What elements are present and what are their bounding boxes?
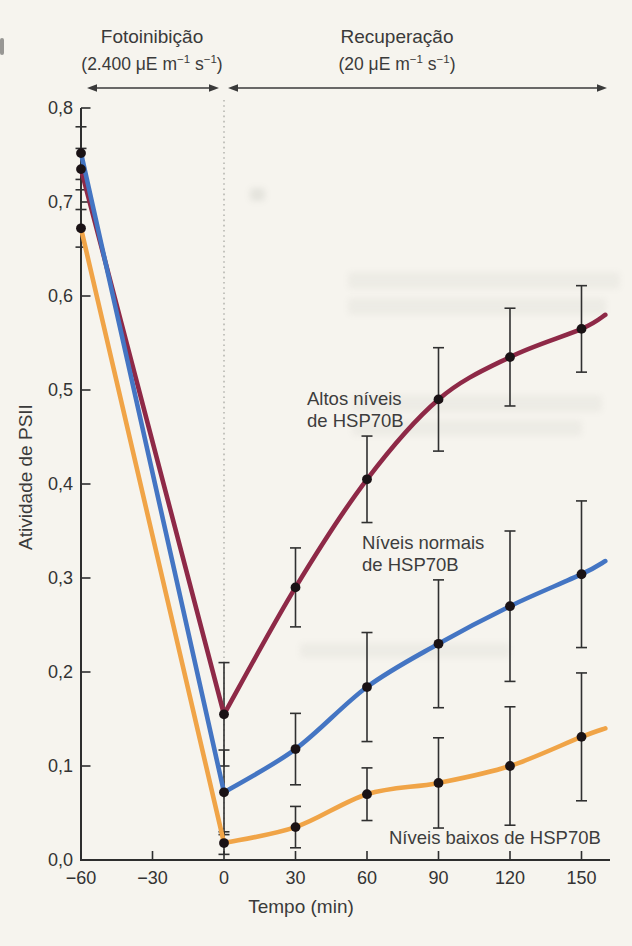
data-point (291, 822, 301, 832)
data-point (434, 395, 444, 405)
data-point (76, 164, 86, 174)
series-label-line: Níveis baixos de HSP70B (389, 827, 601, 849)
series-line-altos-n-veis-de-hsp70b (81, 169, 605, 714)
y-tick-label: 0,2 (48, 662, 73, 682)
x-tick-label: 150 (566, 868, 596, 888)
data-point (577, 569, 587, 579)
phase-fotoinibicao-intensity: (2.400 μE m−1 s−1) (81, 50, 222, 74)
y-tick-label: 0,8 (48, 98, 73, 118)
x-tick-label: −60 (66, 868, 97, 888)
y-tick-label: 0,0 (48, 850, 73, 870)
data-point (577, 732, 587, 742)
data-point (219, 838, 229, 848)
x-axis-title: Tempo (min) (248, 896, 354, 918)
y-tick-label: 0,5 (48, 380, 73, 400)
series-label-line: de HSP70B (362, 554, 484, 576)
phase-fotoinibicao-title: Fotoinibição (81, 26, 222, 47)
data-point (76, 148, 86, 158)
data-point (362, 474, 372, 484)
series-label-line: Níveis normais (362, 532, 484, 554)
series-label-altos-n-veis-de-hsp70b: Altos níveisde HSP70B (307, 388, 404, 432)
data-point (362, 789, 372, 799)
series-label-n-veis-normais-de-hsp70b: Níveis normaisde HSP70B (362, 532, 484, 576)
data-point (291, 583, 301, 593)
axes (81, 108, 610, 860)
figure-page: −60−3003060901201500,00,10,20,30,40,50,6… (0, 0, 632, 946)
phase-arrow-fotoinibicao (87, 84, 219, 92)
y-tick-label: 0,6 (48, 286, 73, 306)
y-tick-label: 0,7 (48, 192, 73, 212)
phase-recuperacao-intensity: (20 μE m−1 s−1) (338, 50, 455, 74)
series-label-line: Altos níveis (307, 388, 404, 410)
series-label-line: de HSP70B (307, 410, 404, 432)
phase-recuperacao-title: Recuperação (338, 26, 455, 47)
data-point (362, 682, 372, 692)
y-tick-label: 0,3 (48, 568, 73, 588)
data-point (434, 639, 444, 649)
y-tick-label: 0,1 (48, 756, 73, 776)
x-tick-label: −30 (137, 868, 168, 888)
data-point (219, 787, 229, 797)
x-tick-label: 30 (285, 868, 305, 888)
y-tick-label: 0,4 (48, 474, 73, 494)
data-point (434, 778, 444, 788)
data-point (505, 601, 515, 611)
data-point (76, 223, 86, 233)
x-tick-label: 90 (428, 868, 448, 888)
data-point (219, 709, 229, 719)
data-point (505, 761, 515, 771)
series-label-n-veis-baixos-de-hsp70b: Níveis baixos de HSP70B (389, 827, 601, 849)
data-point (577, 324, 587, 334)
psii-activity-line-chart: −60−3003060901201500,00,10,20,30,40,50,6… (0, 0, 632, 946)
x-tick-label: 120 (495, 868, 525, 888)
phase-fotoinibicao: Fotoinibição (2.400 μE m−1 s−1) (81, 26, 222, 74)
data-point (505, 352, 515, 362)
y-axis-title: Atividade de PSII (15, 404, 37, 550)
phase-arrow-recuperacao (228, 84, 607, 92)
series-line-n-veis-baixos-de-hsp70b (81, 228, 605, 843)
data-point (291, 744, 301, 754)
x-tick-label: 60 (357, 868, 377, 888)
phase-recuperacao: Recuperação (20 μE m−1 s−1) (338, 26, 455, 74)
x-tick-label: 0 (219, 868, 229, 888)
